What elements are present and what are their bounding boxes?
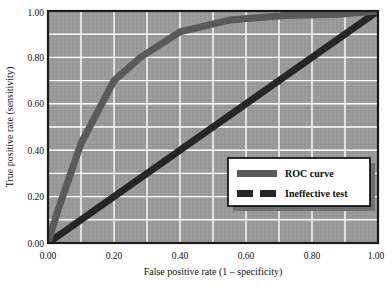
y-axis-title: True positive rate (sensitivity) [4, 67, 16, 187]
y-tick-label: 0.40 [27, 146, 44, 156]
x-tick-label: 1.00 [368, 251, 385, 261]
legend-swatch-solid [237, 170, 277, 177]
chart-canvas: 0.00 0.20 0.40 0.60 0.80 1.00 0.00 0.20 … [0, 0, 392, 292]
x-tick-label: 0.20 [106, 251, 123, 261]
x-axis-title: False positive rate (1 – specificity) [144, 266, 283, 278]
x-tick-label: 0.80 [304, 251, 321, 261]
legend-swatch-dash-1 [237, 190, 253, 197]
legend-label: Ineffective test [285, 188, 348, 199]
y-tick-label: 0.80 [27, 53, 44, 63]
y-tick-label: 0.20 [27, 192, 44, 202]
y-tick-label: 0.00 [27, 239, 44, 249]
x-tick-label: 0.40 [172, 251, 189, 261]
roc-chart-figure: 0.00 0.20 0.40 0.60 0.80 1.00 0.00 0.20 … [0, 0, 392, 292]
y-tick-labels: 0.00 0.20 0.40 0.60 0.80 1.00 [27, 8, 44, 249]
x-tick-label: 0.00 [40, 251, 57, 261]
y-tick-label: 1.00 [27, 8, 44, 18]
chart-legend[interactable]: ROC curve Ineffective test [228, 158, 375, 211]
legend-swatch-dash-2 [260, 190, 276, 197]
legend-label: ROC curve [285, 168, 334, 179]
x-tick-labels: 0.00 0.20 0.40 0.60 0.80 1.00 [40, 251, 385, 261]
y-tick-label: 0.60 [27, 99, 44, 109]
x-tick-label: 0.60 [238, 251, 255, 261]
